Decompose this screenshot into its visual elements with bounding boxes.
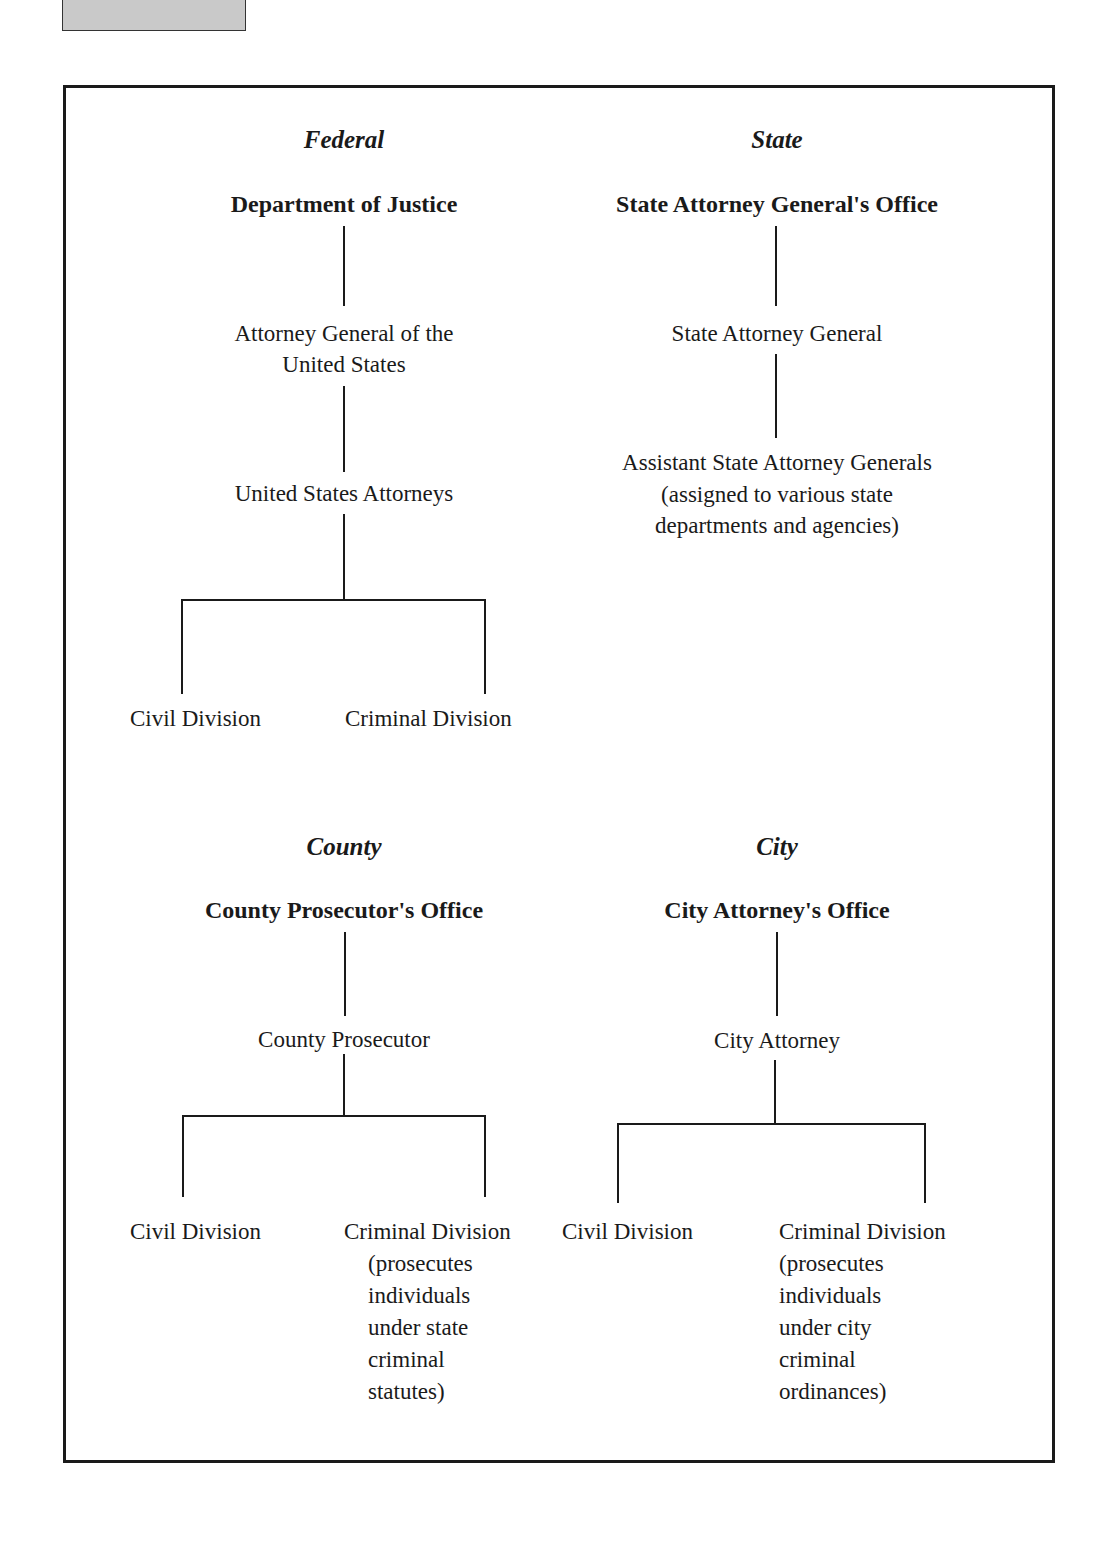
connector-line (182, 1115, 184, 1197)
city-office: City Attorney's Office (577, 894, 977, 926)
connector-line (484, 1115, 486, 1197)
city-civil-division: Civil Division (562, 1216, 693, 1248)
city-criminal-division: Criminal Division (779, 1216, 946, 1248)
county-criminal-note-2: individuals (368, 1280, 470, 1312)
connector-line (775, 226, 777, 306)
connector-line (776, 932, 778, 1016)
city-attorney: City Attorney (597, 1025, 957, 1057)
city-criminal-note-4: criminal (779, 1344, 856, 1376)
connector-line (343, 514, 345, 600)
diagram-frame (63, 85, 1055, 1463)
state-attorney-general: State Attorney General (577, 318, 977, 350)
connector-line (924, 1123, 926, 1203)
federal-office: Department of Justice (164, 188, 524, 220)
county-criminal-note-3: under state (368, 1312, 468, 1344)
connector-line (343, 226, 345, 306)
connector-line (344, 932, 346, 1016)
county-office: County Prosecutor's Office (144, 894, 544, 926)
city-title: City (627, 831, 927, 863)
connector-line (181, 599, 183, 694)
connector-line (774, 1060, 776, 1124)
federal-attorney-general-line1: Attorney General of the (164, 318, 524, 350)
county-criminal-note-4: criminal (368, 1344, 445, 1376)
city-criminal-note-1: (prosecutes (779, 1248, 884, 1280)
connector-line (775, 354, 777, 438)
federal-civil-division: Civil Division (130, 703, 261, 735)
connector-line (617, 1123, 619, 1203)
header-grey-tab (62, 0, 246, 31)
federal-criminal-division: Criminal Division (345, 703, 512, 735)
county-civil-division: Civil Division (130, 1216, 261, 1248)
federal-title: Federal (194, 124, 494, 156)
state-title: State (627, 124, 927, 156)
city-criminal-note-2: individuals (779, 1280, 881, 1312)
state-assistants-line1: Assistant State Attorney Generals (567, 447, 987, 479)
federal-us-attorneys: United States Attorneys (164, 478, 524, 510)
county-criminal-note-5: statutes) (368, 1376, 445, 1408)
county-title: County (194, 831, 494, 863)
state-assistants-line3: departments and agencies) (567, 510, 987, 542)
county-prosecutor: County Prosecutor (164, 1024, 524, 1056)
city-criminal-note-3: under city (779, 1312, 872, 1344)
state-assistants-line2: (assigned to various state (567, 479, 987, 511)
branch-line (182, 1115, 486, 1117)
cropped-header-text (265, 0, 585, 4)
city-criminal-note-5: ordinances) (779, 1376, 886, 1408)
county-criminal-division: Criminal Division (344, 1216, 511, 1248)
county-criminal-note-1: (prosecutes (368, 1248, 473, 1280)
connector-line (484, 599, 486, 694)
connector-line (343, 386, 345, 472)
federal-attorney-general-line2: United States (164, 349, 524, 381)
branch-line (181, 599, 486, 601)
state-office: State Attorney General's Office (577, 188, 977, 220)
branch-line (617, 1123, 926, 1125)
connector-line (343, 1054, 345, 1116)
